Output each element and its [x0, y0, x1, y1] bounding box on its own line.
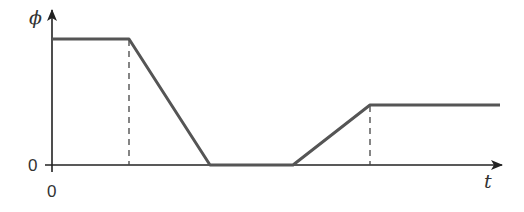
- flux-curve: [52, 39, 500, 165]
- y-origin-label: 0: [28, 157, 37, 174]
- y-axis-label: ϕ: [29, 8, 42, 27]
- x-origin-label: 0: [47, 183, 56, 200]
- flux-time-diagram: [0, 0, 524, 212]
- x-axis-label: t: [484, 172, 492, 191]
